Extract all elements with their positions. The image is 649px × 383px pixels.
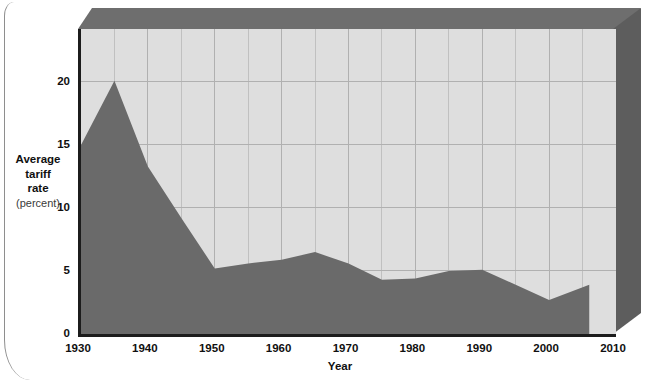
plot-area: [78, 29, 616, 337]
x-tick-1970: 1970: [321, 342, 371, 354]
x-tick-2010: 2010: [588, 342, 638, 354]
y-tick-20: 20: [40, 75, 70, 87]
chart-bevel-right: [613, 8, 641, 334]
x-tick-1940: 1940: [120, 342, 170, 354]
plot-inner: [81, 29, 616, 334]
chart-canvas: [81, 29, 616, 334]
tariff-rate-area-chart-figure: 05101520 1930194019501960197019801990200…: [0, 0, 649, 383]
area-series-tariff-rate: [81, 81, 589, 334]
x-tick-1950: 1950: [187, 342, 237, 354]
y-axis-title: Average tariff rate (percent): [4, 152, 72, 210]
y-tick-15: 15: [40, 138, 70, 150]
x-tick-1930: 1930: [53, 342, 103, 354]
chart-bevel-top: [78, 8, 641, 29]
y-axis-title-line-1: Average: [4, 152, 72, 167]
y-tick-0: 0: [40, 327, 70, 339]
y-axis-title-unit: (percent): [4, 196, 72, 211]
y-axis-title-line-2: tariff: [4, 167, 72, 182]
y-axis-title-line-3: rate: [4, 181, 72, 196]
x-tick-1980: 1980: [387, 342, 437, 354]
x-tick-1960: 1960: [254, 342, 304, 354]
y-tick-5: 5: [40, 264, 70, 276]
x-axis-title: Year: [280, 360, 400, 372]
x-tick-2000: 2000: [521, 342, 571, 354]
x-tick-1990: 1990: [454, 342, 504, 354]
